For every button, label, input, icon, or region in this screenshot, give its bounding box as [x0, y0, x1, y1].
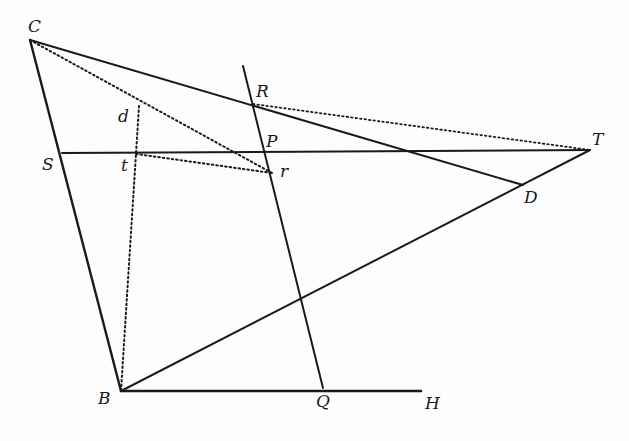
diagram-lines [0, 0, 629, 441]
line-CB [30, 40, 121, 391]
dotted-line-RT [253, 104, 590, 150]
dotted-line-dB [121, 106, 139, 391]
label-Q: Q [316, 393, 330, 410]
label-D: D [524, 189, 538, 206]
label-t: t [121, 157, 128, 174]
line-ST [62, 150, 590, 153]
geometry-diagram: C R P r T D S d t B Q H [0, 0, 629, 441]
label-C: C [28, 18, 41, 35]
line-BT [121, 150, 590, 391]
label-H: H [425, 395, 440, 412]
label-d: d [118, 108, 129, 125]
label-B: B [98, 390, 111, 407]
line-CD [30, 40, 523, 185]
label-S: S [42, 156, 54, 173]
label-P: P [266, 133, 277, 150]
label-R: R [256, 83, 269, 100]
label-r: r [280, 163, 288, 180]
label-T: T [592, 131, 603, 148]
dotted-line-tr [136, 154, 272, 173]
